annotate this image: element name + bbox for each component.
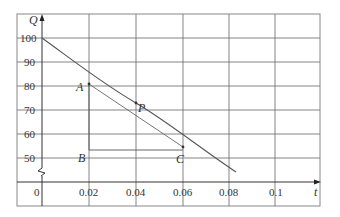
y-axis-label: Q <box>29 13 38 27</box>
x-tick-01: 0.1 <box>269 186 283 198</box>
y-tick-50: 50 <box>24 152 36 164</box>
label-b: B <box>78 151 86 165</box>
y-axis <box>38 18 45 206</box>
point-c-marker <box>182 146 185 149</box>
x-tick-002: 0.02 <box>79 186 98 198</box>
label-a: A <box>75 80 84 94</box>
x-tick-004: 0.04 <box>126 186 146 198</box>
chart: A P B C Q t 100 90 80 70 60 50 0 0.02 0.… <box>0 0 340 217</box>
x-axis-label: t <box>314 185 318 199</box>
y-axis-arrow-icon <box>40 14 45 21</box>
x-tick-008: 0.08 <box>219 186 239 198</box>
label-c: C <box>176 152 185 166</box>
x-tick-0: 0 <box>34 186 40 198</box>
label-p: P <box>137 101 146 115</box>
point-a-marker <box>88 83 91 86</box>
y-tick-100: 100 <box>20 32 37 44</box>
y-tick-80: 80 <box>24 80 36 92</box>
y-tick-70: 70 <box>24 104 36 116</box>
point-p-marker <box>135 102 138 105</box>
y-tick-90: 90 <box>24 56 36 68</box>
y-tick-60: 60 <box>24 128 36 140</box>
x-tick-006: 0.06 <box>173 186 193 198</box>
